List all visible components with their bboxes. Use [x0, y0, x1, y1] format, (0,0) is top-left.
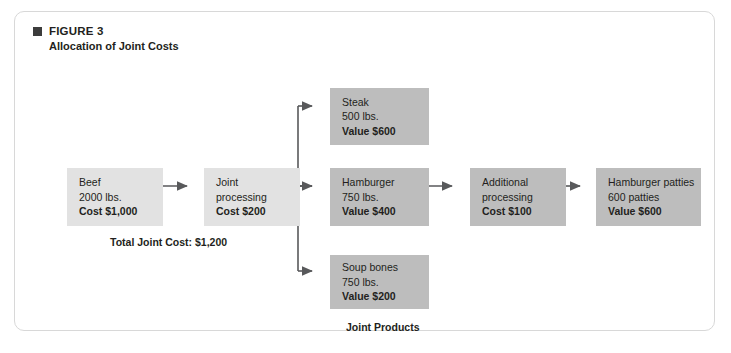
- figure-frame: FIGURE 3 Allocation of Joint Costs Beef …: [14, 11, 715, 331]
- node-joint-processing-line3: Cost $200: [216, 204, 300, 219]
- node-patties-line2: 600 patties: [608, 190, 701, 205]
- node-steak-line2: 500 lbs.: [342, 109, 429, 124]
- node-beef-line1: Beef: [79, 175, 163, 190]
- node-soup-bones-line1: Soup bones: [342, 260, 429, 275]
- node-beef-line3: Cost $1,000: [79, 204, 163, 219]
- node-beef-line2: 2000 lbs.: [79, 190, 163, 205]
- node-hamburger-patties: Hamburger patties 600 patties Value $600: [596, 168, 701, 226]
- node-hamburger: Hamburger 750 lbs. Value $400: [330, 168, 429, 226]
- node-soup-bones: Soup bones 750 lbs. Value $200: [330, 255, 429, 309]
- filled-square-icon: [33, 27, 42, 36]
- node-joint-processing: Joint processing Cost $200: [204, 168, 300, 226]
- node-additional-line3: Cost $100: [482, 204, 566, 219]
- node-hamburger-line1: Hamburger: [342, 175, 429, 190]
- node-patties-line3: Value $600: [608, 204, 701, 219]
- node-steak: Steak 500 lbs. Value $600: [330, 88, 429, 145]
- node-soup-bones-line3: Value $200: [342, 289, 429, 304]
- figure-subtitle: Allocation of Joint Costs: [49, 40, 179, 52]
- node-additional-line2: processing: [482, 190, 566, 205]
- node-steak-line3: Value $600: [342, 124, 429, 139]
- node-joint-processing-line1: Joint: [216, 175, 300, 190]
- node-beef: Beef 2000 lbs. Cost $1,000: [67, 168, 163, 226]
- node-hamburger-line3: Value $400: [342, 204, 429, 219]
- node-soup-bones-line2: 750 lbs.: [342, 275, 429, 290]
- node-hamburger-line2: 750 lbs.: [342, 190, 429, 205]
- label-total-joint-cost: Total Joint Cost: $1,200: [110, 236, 227, 248]
- node-patties-line1: Hamburger patties: [608, 175, 701, 190]
- label-joint-products: Joint Products: [346, 321, 420, 333]
- figure-caption: FIGURE 3 Allocation of Joint Costs: [33, 25, 179, 52]
- node-steak-line1: Steak: [342, 95, 429, 110]
- node-additional-processing: Additional processing Cost $100: [470, 168, 566, 226]
- node-additional-line1: Additional: [482, 175, 566, 190]
- node-joint-processing-line2: processing: [216, 190, 300, 205]
- figure-number: FIGURE 3: [49, 25, 104, 37]
